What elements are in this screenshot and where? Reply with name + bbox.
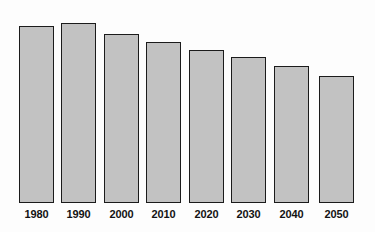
bar-rect[interactable]: [146, 42, 181, 203]
bar-category-label: 2000: [109, 209, 133, 220]
bar-category-label: 1980: [24, 209, 48, 220]
bar-category-label: 2040: [279, 209, 303, 220]
bar-chart: 89.8 1980 90.2 1990 88.5 2000 86.6 2010 …: [0, 0, 375, 232]
bar-rect[interactable]: [319, 76, 354, 203]
bar-rect[interactable]: [104, 34, 139, 203]
bar-category-label: 2050: [324, 209, 348, 220]
bar-rect[interactable]: [189, 50, 224, 203]
bar-category-label: 1990: [66, 209, 90, 220]
bar-rect[interactable]: [61, 23, 96, 203]
bar-category-label: 2010: [151, 209, 175, 220]
bar-rect[interactable]: [231, 57, 266, 203]
bar-rect[interactable]: [274, 66, 309, 203]
bar-rect[interactable]: [19, 26, 54, 203]
bar-category-label: 2030: [236, 209, 260, 220]
plot-area: 89.8 1980 90.2 1990 88.5 2000 86.6 2010 …: [0, 0, 375, 232]
bar-category-label: 2020: [194, 209, 218, 220]
